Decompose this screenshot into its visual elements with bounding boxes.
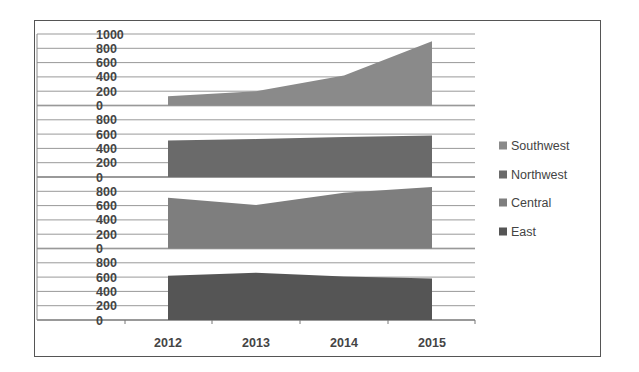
y-tick-label: 1000 — [96, 28, 124, 42]
area-series — [168, 41, 432, 320]
area-northwest — [168, 136, 432, 177]
legend-swatch-central — [499, 199, 507, 207]
y-tick-label: 800 — [96, 185, 117, 199]
panel-area-chart: 1000800600400200080060040020008006004002… — [0, 0, 639, 372]
y-tick-label: 200 — [96, 85, 117, 99]
y-tick-label: 600 — [96, 56, 117, 70]
y-tick-label: 800 — [96, 42, 117, 56]
y-tick-label: 600 — [96, 271, 117, 285]
legend-label-northwest: Northwest — [511, 168, 568, 182]
y-tick-label: 400 — [96, 70, 117, 84]
legend-label-southwest: Southwest — [511, 139, 570, 153]
y-tick-label: 400 — [96, 213, 117, 227]
legend: SouthwestNorthwestCentralEast — [499, 139, 570, 239]
y-tick-label: 600 — [96, 199, 117, 213]
x-category-label: 2012 — [154, 336, 182, 350]
y-tick-label: 200 — [96, 228, 117, 242]
y-tick-label: 0 — [96, 171, 103, 185]
y-tick-label: 200 — [96, 156, 117, 170]
y-tick-label: 0 — [96, 314, 103, 328]
y-tick-label: 400 — [96, 142, 117, 156]
y-tick-label: 0 — [96, 242, 103, 256]
legend-swatch-northwest — [499, 171, 507, 179]
y-tick-label: 0 — [96, 99, 103, 113]
y-tick-label: 200 — [96, 299, 117, 313]
legend-swatch-east — [499, 228, 507, 236]
area-east — [168, 273, 432, 320]
area-central — [168, 187, 432, 248]
y-tick-label: 800 — [96, 256, 117, 270]
y-tick-label: 800 — [96, 113, 117, 127]
x-category-label: 2013 — [242, 336, 270, 350]
x-category-label: 2014 — [330, 336, 358, 350]
legend-swatch-southwest — [499, 142, 507, 150]
x-axis-category-labels: 2012201320142015 — [154, 336, 446, 350]
x-category-label: 2015 — [418, 336, 446, 350]
legend-label-east: East — [511, 225, 537, 239]
legend-label-central: Central — [511, 196, 551, 210]
y-tick-label: 600 — [96, 128, 117, 142]
y-tick-label: 400 — [96, 285, 117, 299]
area-southwest — [168, 41, 432, 105]
